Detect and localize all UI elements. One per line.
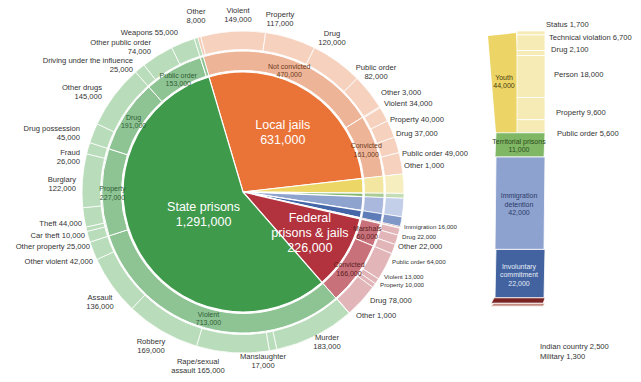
bar-label-military: Military 1,300 xyxy=(540,352,585,361)
outer-label: Other 22,000 xyxy=(398,242,442,251)
youth-detail-label: Property 9,600 xyxy=(556,108,606,117)
bar-label-indian-country: Indian country 2,500 xyxy=(540,342,609,351)
outer-label: Violent 13,000 xyxy=(384,273,424,280)
outer-label: Drug 78,000 xyxy=(370,296,412,305)
outer-label: Other 1,000 xyxy=(404,161,444,170)
outer-label: Other public order74,000 xyxy=(90,38,151,56)
outer-label: Property 40,000 xyxy=(390,115,444,124)
bar-segment xyxy=(491,303,545,306)
bar-block xyxy=(491,303,545,306)
side-bar-other-facilities: Youth44,000Status 1,700Technical violati… xyxy=(488,20,632,361)
youth-detail-label: Drug 2,100 xyxy=(551,45,589,54)
outer-label: Manslaughter17,000 xyxy=(240,352,286,370)
outer-label: Public order 64,000 xyxy=(392,258,446,265)
youth-detail-label: Technical violation 6,700 xyxy=(549,33,632,42)
youth-detail-segment xyxy=(517,97,545,119)
core-label-local: Local jails631,000 xyxy=(255,118,310,147)
outer-ring-segment xyxy=(381,153,403,176)
outer-label: Drug possession45,000 xyxy=(23,124,80,142)
youth-detail-segment xyxy=(517,55,545,97)
outer-label: Murder183,000 xyxy=(313,333,340,351)
middle-ring-label: Property227,000 xyxy=(99,185,126,201)
bar-segment xyxy=(491,298,545,304)
outer-ring-segment xyxy=(384,198,404,217)
core-label-state: State prisons1,291,000 xyxy=(167,200,240,229)
youth-detail-segment xyxy=(517,120,545,133)
youth-detail-label: Public order 5,600 xyxy=(557,129,619,138)
outer-label: Violent 34,000 xyxy=(384,99,432,108)
outer-ring-segment xyxy=(83,206,104,227)
middle-ring-segment xyxy=(364,176,384,193)
outer-label: Other violent 42,000 xyxy=(25,257,93,266)
outer-label: Public order82,000 xyxy=(356,63,397,81)
outer-label: Other 1,000 xyxy=(356,311,396,320)
outer-label: Other 3,000 xyxy=(381,88,421,97)
outer-label: Car theft 10,000 xyxy=(31,231,85,240)
outer-label: Robbery169,000 xyxy=(137,337,166,355)
prison-population-sunburst-chart: Not convicted470,000Convicted161,000Loca… xyxy=(0,0,641,382)
bar-label-youth: Youth44,000 xyxy=(493,74,515,90)
outer-ring-segment xyxy=(385,174,404,194)
youth-detail-segment xyxy=(517,35,545,51)
outer-label: Immigration 16,000 xyxy=(404,223,458,230)
outer-label: Fraud26,000 xyxy=(57,148,80,166)
outer-label: Public order 49,000 xyxy=(402,149,468,158)
outer-label: Burglary122,000 xyxy=(48,175,76,193)
outer-label: Other drugs145,000 xyxy=(62,83,102,101)
youth-detail-label: Person 18,000 xyxy=(554,70,603,79)
outer-label: Drug 22,000 xyxy=(402,233,437,240)
outer-label: Theft 44,000 xyxy=(39,219,82,228)
youth-detail-segment xyxy=(517,51,545,56)
outer-label: Other8,000 xyxy=(186,7,205,25)
outer-label: Rape/sexualassault 165,000 xyxy=(171,357,225,375)
youth-detail-label: Status 1,700 xyxy=(546,20,589,29)
outer-label: Property 10,000 xyxy=(380,281,425,288)
middle-ring-label: Convicted161,000 xyxy=(351,142,382,158)
middle-ring-label: Marshals60,000 xyxy=(353,225,382,241)
outer-label: Property117,000 xyxy=(266,10,295,28)
outer-label: Violent149,000 xyxy=(224,6,251,24)
outer-label: Driving under the influence25,000 xyxy=(43,56,133,74)
middle-ring-label: Convicted166,000 xyxy=(333,261,364,277)
bar-block xyxy=(491,298,545,304)
middle-ring-label: Violent713,000 xyxy=(196,311,221,327)
outer-label: Weapons 55,000 xyxy=(121,28,178,37)
outer-label: Drug 37,000 xyxy=(396,129,438,138)
outer-label: Other property 25,000 xyxy=(16,242,90,251)
pie-rings xyxy=(82,31,404,353)
outer-label: Assault136,000 xyxy=(86,293,113,311)
youth-detail-segment xyxy=(517,31,545,35)
outer-label: Drug120,000 xyxy=(318,29,345,47)
